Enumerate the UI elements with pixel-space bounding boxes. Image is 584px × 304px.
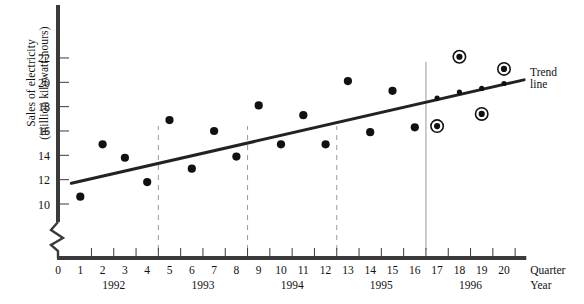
x-tick-label-18: 18 [454, 264, 466, 276]
x-tick-label-16: 16 [409, 264, 421, 276]
data-point-observed-q14 [366, 128, 374, 136]
x-tick-label-7: 7 [211, 264, 217, 276]
data-point-observed-q4 [143, 178, 151, 186]
data-point-observed-q10 [277, 140, 285, 148]
x-axis-label-quarter: Quarter [530, 264, 565, 276]
x-tick-label-5: 5 [167, 264, 173, 276]
x-tick-label-12: 12 [320, 264, 332, 276]
y-axis-title-line2: (million kilowatt-hours) [38, 0, 51, 173]
x-tick-label-6: 6 [189, 264, 195, 276]
y-axis-title: Sales of electricity (million kilowatt-h… [25, 0, 51, 173]
data-point-trend-fitted-q20 [501, 81, 506, 86]
y-tick-label-10: 10 [38, 198, 50, 212]
y-tick-label-12: 12 [38, 173, 50, 187]
y-axis-break-symbol [51, 222, 63, 258]
year-group-label-1996: 1996 [459, 279, 482, 291]
x-tick-label-14: 14 [364, 264, 376, 276]
data-point-trend-fitted-q18 [457, 89, 462, 94]
year-group-label-1994: 1994 [281, 279, 304, 291]
x-tick-label-13: 13 [342, 264, 354, 276]
trend-line-label-line1: Trend [530, 66, 557, 79]
chart-container: 1012141618202201234567891011121314151617… [0, 0, 584, 304]
x-tick-label-3: 3 [122, 264, 128, 276]
y-axis-title-line1: Sales of electricity [25, 0, 38, 173]
data-point-observed-q12 [322, 140, 330, 148]
data-point-observed-q3 [121, 154, 129, 162]
trend-line [71, 80, 524, 183]
chart-svg: 1012141618202201234567891011121314151617… [0, 0, 584, 304]
trend-line-label-line2: line [530, 78, 557, 91]
data-point-observed-q5 [165, 116, 173, 124]
data-point-trend-fitted-q17 [435, 96, 440, 101]
x-tick-label-1: 1 [77, 264, 83, 276]
data-point-observed-q16 [411, 123, 419, 131]
data-point-observed-q2 [99, 140, 107, 148]
x-tick-label-0: 0 [55, 264, 61, 276]
x-tick-label-9: 9 [256, 264, 262, 276]
x-axis-label-year: Year [530, 279, 551, 291]
year-group-label-1993: 1993 [191, 279, 214, 291]
data-point-observed-q15 [388, 87, 396, 95]
data-point-observed-q11 [299, 111, 307, 119]
data-point-observed-q6 [188, 165, 196, 173]
trend-line-label: Trend line [530, 66, 557, 91]
x-tick-label-11: 11 [298, 264, 309, 276]
data-point-observed-q13 [344, 77, 352, 85]
data-point-actual-q19 [479, 111, 485, 117]
data-point-observed-q1 [76, 193, 84, 201]
year-group-label-1992: 1992 [102, 279, 125, 291]
x-tick-label-20: 20 [498, 264, 510, 276]
data-point-trend-fitted-q19 [479, 86, 484, 91]
x-tick-label-17: 17 [431, 264, 443, 276]
data-point-observed-q7 [210, 127, 218, 135]
data-point-actual-q18 [456, 54, 462, 60]
x-tick-label-4: 4 [144, 264, 150, 276]
x-tick-label-19: 19 [476, 264, 488, 276]
data-point-actual-q20 [501, 66, 507, 72]
year-group-label-1995: 1995 [370, 279, 393, 291]
data-point-actual-q17 [434, 123, 440, 129]
x-tick-label-2: 2 [100, 264, 106, 276]
x-tick-label-10: 10 [275, 264, 287, 276]
data-point-observed-q9 [255, 101, 263, 109]
data-point-observed-q8 [232, 152, 240, 160]
x-tick-label-8: 8 [234, 264, 240, 276]
x-tick-label-15: 15 [387, 264, 399, 276]
